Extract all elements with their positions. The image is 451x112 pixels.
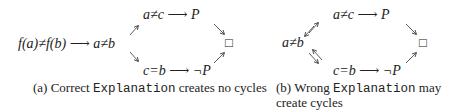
edge-P-to-box <box>406 24 416 34</box>
caption-b-suffix: may <box>416 80 442 95</box>
edge-ac-to-ab <box>305 26 314 36</box>
arrow-icon: ⟶ <box>357 7 377 22</box>
caption-a-code: Explanation <box>93 82 176 96</box>
caption-b-line2: create cycles <box>276 96 343 109</box>
node-top-left: a≠c <box>333 7 354 22</box>
node-bottom-right: ¬P <box>193 63 211 78</box>
node-top: a≠c ⟶ P <box>333 8 390 22</box>
arrow-icon: ⟶ <box>359 63 379 78</box>
node-top-left: a≠c <box>143 7 164 22</box>
node-bottom-left: c=b <box>143 63 166 78</box>
caption-a-prefix: (a) Correct <box>33 80 93 95</box>
node-mid-label: a≠b <box>93 36 115 51</box>
node-top: a≠c ⟶ P <box>143 8 200 22</box>
node-start: f(a)≠f(b) ⟶ a≠b <box>18 37 115 51</box>
edge-ab-to-ac <box>130 26 138 35</box>
edge-notP-to-box <box>406 53 416 63</box>
node-start-label: f(a)≠f(b) <box>18 36 66 51</box>
node-top-right: P <box>381 7 390 22</box>
caption-b-prefix: (b) Wrong <box>276 80 333 95</box>
caption-b-code: Explanation <box>333 82 416 96</box>
arrow-icon: ⟶ <box>169 63 189 78</box>
box-icon: □ <box>225 36 233 49</box>
caption-b: (b) Wrong Explanation may <box>276 81 441 96</box>
node-bottom: c=b ⟶ ¬P <box>333 64 401 78</box>
caption-a: (a) Correct Explanation creates no cycle… <box>33 81 267 96</box>
edge-ab-to-ac <box>309 23 318 33</box>
node-bottom-right: ¬P <box>383 63 401 78</box>
caption-a-suffix: creates no cycles <box>175 80 266 95</box>
edge-ab-to-cb <box>130 52 138 61</box>
node-top-right: P <box>191 7 200 22</box>
box-icon: □ <box>419 36 427 49</box>
arrow-icon: ⟶ <box>167 7 187 22</box>
node-bottom-left: c=b <box>333 63 356 78</box>
arrow-icon: ⟶ <box>70 36 90 51</box>
edge-P-to-box <box>214 24 224 34</box>
node-bottom: c=b ⟶ ¬P <box>143 64 211 78</box>
edge-notP-to-box <box>214 53 224 63</box>
node-mid: a≠b <box>282 36 304 50</box>
